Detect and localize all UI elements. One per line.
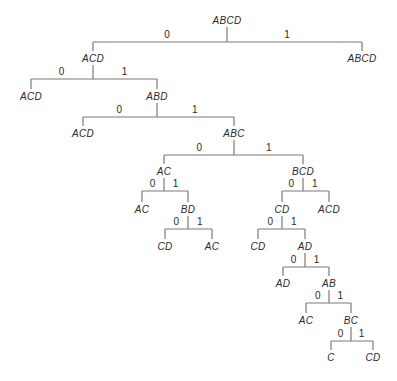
branch-label-1: 1 bbox=[359, 328, 365, 339]
branch-label-1: 1 bbox=[266, 142, 272, 153]
branch-label-1: 1 bbox=[291, 216, 297, 227]
tree-node-label: CD bbox=[250, 241, 265, 252]
tree-node-label: AC bbox=[135, 204, 150, 215]
tree-node-label: BCD bbox=[292, 166, 314, 177]
tree-node-label: ABCD bbox=[348, 53, 377, 64]
tree-node-label: BC bbox=[344, 315, 359, 326]
tree-node-label: AC bbox=[205, 241, 220, 252]
branch-label-0: 0 bbox=[288, 178, 294, 189]
branch-label-0: 0 bbox=[291, 254, 297, 265]
tree-node-label: AB bbox=[322, 278, 336, 289]
tree-node-label: CD bbox=[365, 352, 380, 363]
tree-node-label: AD bbox=[298, 241, 313, 252]
branch-label-1: 1 bbox=[284, 29, 290, 40]
tree-node-label: ABC bbox=[223, 128, 244, 139]
tree-node-label: CD bbox=[274, 204, 289, 215]
branch-label-0: 0 bbox=[150, 178, 156, 189]
tree-node-label: ABD bbox=[146, 91, 167, 102]
tree-node-label: C bbox=[327, 352, 335, 363]
branch-label-0: 0 bbox=[338, 328, 344, 339]
tree-node-label: AC bbox=[157, 166, 172, 177]
tree-node-label: ABCD bbox=[213, 15, 242, 26]
decision-tree-diagram: ABCDACDABCDACDABDACDABCACBCDACBDCDACDCDA… bbox=[0, 0, 397, 381]
branch-label-0: 0 bbox=[173, 216, 179, 227]
tree-node-label: ACD bbox=[72, 128, 94, 139]
branch-label-0: 0 bbox=[116, 104, 122, 115]
branch-label-1: 1 bbox=[312, 178, 318, 189]
branch-label-1: 1 bbox=[314, 254, 320, 265]
tree-node-label: ACD bbox=[20, 91, 42, 102]
branch-label-0: 0 bbox=[315, 290, 321, 301]
branch-label-0: 0 bbox=[267, 216, 273, 227]
branch-label-1: 1 bbox=[197, 216, 203, 227]
tree-node-label: AC bbox=[299, 315, 314, 326]
branch-label-0: 0 bbox=[59, 66, 65, 77]
branch-label-0: 0 bbox=[196, 142, 202, 153]
tree-edges bbox=[0, 0, 397, 381]
branch-label-1: 1 bbox=[337, 290, 343, 301]
tree-node-label: ACD bbox=[318, 204, 340, 215]
tree-node-label: ACD bbox=[82, 53, 104, 64]
tree-node-label: CD bbox=[157, 241, 172, 252]
branch-label-1: 1 bbox=[173, 178, 179, 189]
branch-label-0: 0 bbox=[164, 29, 170, 40]
tree-node-label: AD bbox=[276, 278, 291, 289]
branch-label-1: 1 bbox=[122, 66, 128, 77]
branch-label-1: 1 bbox=[192, 104, 198, 115]
tree-node-label: BD bbox=[181, 204, 196, 215]
